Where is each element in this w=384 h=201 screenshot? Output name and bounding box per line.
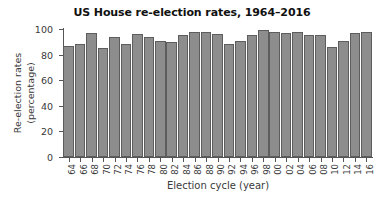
x-tick-label: 16 [365,164,375,175]
bar [281,33,292,157]
x-tick-label: 92 [227,164,237,175]
bar [155,41,166,157]
x-tick-label: 72 [113,164,123,175]
bar [235,41,246,157]
x-tick-label: 02 [285,164,295,175]
plot-area: 020406080100 [63,29,372,157]
x-tick-mark [275,158,276,162]
x-tick-label: 76 [136,164,146,175]
x-axis-ticks: 6466687072747678808284868890929496980002… [63,158,373,178]
x-tick-mark [195,158,196,162]
x-tick-mark [183,158,184,162]
x-tick-mark [80,158,81,162]
bar [189,32,200,157]
y-tick-label: 40 [41,100,53,111]
x-tick-label: 12 [342,164,352,175]
bar [258,30,269,157]
x-tick-mark [92,158,93,162]
x-tick-mark [229,158,230,162]
x-tick-label: 08 [319,164,329,175]
bar [304,35,315,157]
y-axis-title-line-2: (percentage) [24,53,37,133]
bar [315,35,326,157]
x-tick-label: 90 [216,164,226,175]
x-tick-mark [149,158,150,162]
bar [63,46,74,157]
y-tick-label: 0 [47,152,53,163]
bar [338,41,349,157]
x-tick-label: 10 [330,164,340,175]
x-tick-mark [309,158,310,162]
x-tick-label: 68 [90,164,100,175]
y-tick-label: 100 [35,24,53,35]
y-axis-title: Re-election rates (percentage) [11,29,37,157]
bar [327,47,338,157]
chart-figure: US House re-election rates, 1964–2016 Re… [0,0,384,201]
bar [121,44,132,157]
bar [86,33,97,157]
x-tick-label: 04 [296,164,306,175]
bar [166,42,177,157]
x-tick-label: 86 [193,164,203,175]
bar-series [63,29,372,157]
x-tick-mark [263,158,264,162]
x-tick-mark [69,158,70,162]
bar [132,34,143,157]
bar [144,37,155,157]
x-tick-mark [366,158,367,162]
bar [350,33,361,157]
x-tick-mark [206,158,207,162]
x-tick-label: 74 [124,164,134,175]
x-tick-label: 78 [147,164,157,175]
y-axis-title-text: Re-election rates (percentage) [12,53,37,133]
x-tick-label: 06 [308,164,318,175]
x-tick-mark [355,158,356,162]
x-tick-mark [252,158,253,162]
x-tick-mark [126,158,127,162]
x-tick-mark [298,158,299,162]
x-tick-mark [137,158,138,162]
x-tick-label: 70 [102,164,112,175]
y-tick-label: 80 [41,49,53,60]
x-tick-label: 00 [273,164,283,175]
y-axis-title-line-1: Re-election rates [12,53,25,133]
x-tick-label: 80 [159,164,169,175]
bar [201,32,212,157]
y-tick-label: 60 [41,75,53,86]
x-tick-mark [103,158,104,162]
x-tick-label: 96 [250,164,260,175]
x-tick-mark [321,158,322,162]
bar [224,44,235,157]
bar [98,48,109,157]
x-tick-label: 88 [205,164,215,175]
x-tick-mark [286,158,287,162]
x-tick-label: 94 [239,164,249,175]
x-tick-mark [240,158,241,162]
x-tick-label: 82 [170,164,180,175]
x-tick-label: 66 [79,164,89,175]
y-tick-label: 20 [41,126,53,137]
x-tick-mark [332,158,333,162]
bar [178,35,189,157]
x-tick-mark [160,158,161,162]
x-tick-mark [172,158,173,162]
bar [247,35,258,157]
x-tick-label: 64 [67,164,77,175]
x-tick-label: 84 [182,164,192,175]
x-tick-label: 14 [353,164,363,175]
x-tick-mark [343,158,344,162]
chart-title: US House re-election rates, 1964–2016 [0,6,384,19]
bar [292,32,303,157]
bar [75,44,86,157]
bar [109,37,120,157]
x-tick-mark [218,158,219,162]
x-tick-label: 98 [262,164,272,175]
bar [269,32,280,157]
bar [361,32,372,157]
x-tick-mark [115,158,116,162]
bar [212,34,223,157]
x-axis-title: Election cycle (year) [63,180,373,191]
